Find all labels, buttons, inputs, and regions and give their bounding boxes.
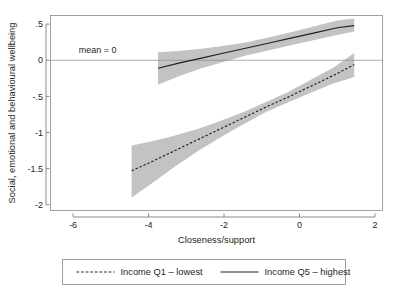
x-tick-label-3: 0 [297, 220, 302, 230]
x-axis-title: Closeness/support [178, 235, 255, 245]
chart-legend: Income Q1 – lowestIncome Q5 – highest [63, 260, 351, 285]
y-axis-title: Social, emotional and behavioural wellbe… [7, 23, 17, 204]
chart-figure: .50-.5-1-1.5-2-6-4-202Closeness/supportS… [0, 0, 408, 294]
annotation-mean-zero: mean = 0 [79, 45, 117, 55]
y-tick-label-0: .5 [35, 19, 43, 29]
x-tick-label-4: 2 [372, 220, 377, 230]
x-tick-label-2: -2 [220, 220, 228, 230]
y-tick-label-5: -2 [35, 200, 43, 210]
y-tick-label-3: -1 [35, 128, 43, 138]
y-tick-label-2: -.5 [32, 92, 43, 102]
x-tick-label-1: -4 [145, 220, 153, 230]
y-tick-label-1: 0 [38, 55, 43, 65]
annotations-layer: mean = 0 [79, 45, 117, 55]
x-tick-label-0: -6 [69, 220, 77, 230]
legend-label-q5-highest: Income Q5 – highest [265, 267, 351, 277]
marginal-effects-plot: .50-.5-1-1.5-2-6-4-202Closeness/supportS… [0, 0, 408, 294]
y-tick-label-4: -1.5 [27, 164, 43, 174]
confidence-bands-layer [132, 18, 355, 197]
legend-label-q1-lowest: Income Q1 – lowest [121, 267, 204, 277]
